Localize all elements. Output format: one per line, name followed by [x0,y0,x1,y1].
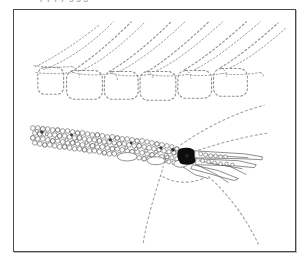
granule [77,146,82,151]
granule [70,141,75,146]
granule [213,161,217,165]
granule [142,156,147,161]
granule [60,140,65,145]
granule [199,152,203,156]
granule [137,155,142,160]
granule [95,133,100,138]
granule [62,145,67,150]
granule [52,144,57,149]
granule [125,146,128,149]
granule [165,144,170,149]
granule [147,145,152,150]
granule [145,149,148,152]
granule [75,131,80,136]
granule [82,148,87,153]
granule [175,147,179,151]
granule [145,140,150,145]
granule [87,148,92,153]
granule [82,137,87,142]
granule [72,147,77,152]
granule [125,137,130,142]
granule [35,129,38,132]
granule [170,156,174,160]
granule [120,147,125,152]
granule [107,151,112,156]
granule [100,144,105,149]
dark-granule [109,138,112,141]
granule [167,160,171,164]
granule [219,162,223,166]
granule [47,143,52,148]
granule [219,155,223,159]
figure-frame-border: .dash-thin { fill:none; stroke:#9d9d9d; … [13,9,296,252]
granule [204,153,208,157]
granule [150,153,155,158]
granule [225,162,228,165]
granule [150,141,155,146]
granule [154,150,157,153]
granule [55,128,60,133]
granule [214,154,218,158]
granule [30,126,35,131]
granule [135,139,140,144]
granule [42,143,47,148]
granule [90,133,95,138]
granule [135,147,138,150]
granule [45,127,50,132]
granule [92,149,97,154]
figure-page: ppppggg .dash-thin { fill:none; stroke:#… [0,0,307,260]
granule [102,151,107,156]
granule [115,144,118,147]
vesicle [117,153,137,161]
granule [37,142,42,147]
granule [33,141,38,146]
dark-granule [159,146,162,149]
granule [55,136,58,139]
vesicle [147,157,165,165]
granule [115,136,120,141]
granule [45,138,50,143]
granule [201,159,205,163]
dark-granule [185,154,189,158]
granule [224,155,228,159]
granule [85,132,90,137]
granule [167,150,171,154]
granule [75,139,78,142]
granule [65,138,68,141]
granule [110,146,115,151]
granule [45,132,48,135]
granule [40,137,45,142]
granule [97,149,102,154]
cropped-text-line-remnant: ppppggg [0,0,307,8]
granule [105,143,108,146]
cropped-text-glyphs: ppppggg [40,0,90,2]
granule [67,145,72,150]
granule [62,134,67,139]
granule [231,163,234,166]
granule [87,138,92,143]
granule [90,143,95,148]
granule [95,142,98,145]
granule [155,142,160,147]
granule [57,144,62,149]
granule [207,160,211,164]
granule [92,138,97,143]
granule [80,131,85,136]
granule [100,134,105,139]
granule [122,142,127,147]
granule [164,153,167,156]
granule [142,145,147,150]
granule [112,152,117,157]
granule [140,139,145,144]
granule [140,150,145,155]
granule [36,137,41,142]
dark-granule [40,130,43,133]
dark-granule [70,133,73,136]
granule [85,141,88,144]
granule [65,129,70,134]
granule [209,154,213,158]
granule [30,136,35,141]
dark-granule [130,141,133,144]
granule [60,129,65,134]
granule [120,137,125,142]
